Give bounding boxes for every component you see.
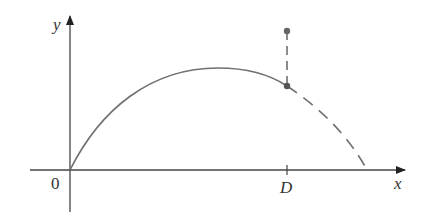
x-axis-label: x [393,174,402,193]
origin-label: 0 [51,174,60,193]
trajectory-dashed-curve [287,86,367,170]
upper-point [284,28,290,34]
trajectory-solid-curve [70,68,287,170]
d-label: D [279,178,293,197]
y-axis-label: y [51,15,61,34]
trajectory-diagram: y x 0 D [0,0,425,219]
curve-point-at-d [284,83,290,89]
diagram-canvas: y x 0 D [0,0,425,219]
